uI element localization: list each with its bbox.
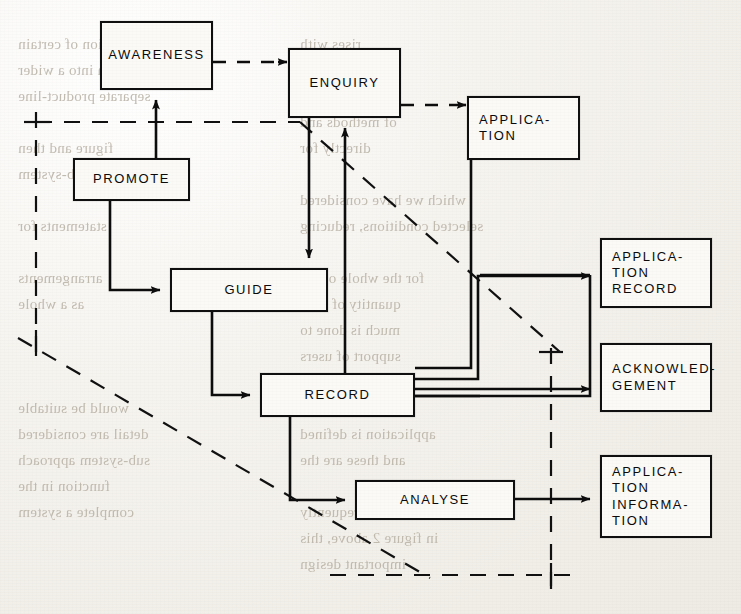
diagram-node-label: RECORD [305, 387, 371, 403]
edge-promote-to-guide [110, 201, 160, 290]
diagram-node-record[interactable]: RECORD [260, 373, 415, 417]
diagram-node-awareness[interactable]: AWARENESS [100, 21, 213, 90]
diagram-node-label: GUIDE [224, 282, 273, 298]
edge-guide-to-record [212, 312, 250, 395]
diagram-node-label: ANALYSE [400, 492, 470, 508]
edge-record-to-analyse [290, 417, 345, 500]
diagram-node-app-record[interactable]: APPLICA- TION RECORD [600, 238, 712, 308]
diagram-node-enquiry[interactable]: ENQUIRY [288, 48, 401, 118]
diagram-node-label: APPLICA- TION [479, 112, 551, 145]
diagram-node-label: ENQUIRY [309, 75, 379, 91]
diagram-node-label: ACKNOWLED- GEMENT [612, 361, 716, 394]
diagram-node-acknowledge[interactable]: ACKNOWLED- GEMENT [600, 343, 712, 412]
diagram-node-label: AWARENESS [108, 47, 205, 63]
diagram-node-app-info[interactable]: APPLICA- TION INFORMA- TION [600, 455, 712, 538]
diagram-node-label: APPLICA- TION RECORD [612, 249, 684, 298]
diagram-node-analyse[interactable]: ANALYSE [355, 480, 515, 520]
diagram-node-label: APPLICA- TION INFORMA- TION [612, 464, 689, 529]
edge-application-to-record [415, 128, 471, 368]
diagram-node-promote[interactable]: PROMOTE [73, 158, 190, 201]
diagram-node-label: PROMOTE [93, 171, 170, 187]
diagram-node-guide[interactable]: GUIDE [170, 268, 328, 312]
diagram-node-application[interactable]: APPLICA- TION [467, 96, 580, 160]
edge-record-to-app-record-elbow [415, 276, 590, 379]
scanned-page: the function of certainsystem into a wid… [0, 0, 741, 614]
